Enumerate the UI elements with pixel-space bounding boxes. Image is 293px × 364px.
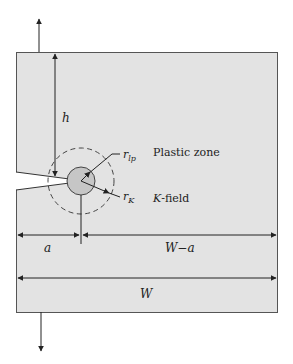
- w-minus-a-label: W−a: [165, 241, 195, 255]
- a-label: a: [44, 241, 51, 255]
- h-label: h: [62, 111, 70, 125]
- k-field-label: K-field: [152, 192, 189, 205]
- plastic-zone-label: Plastic zone: [153, 146, 220, 159]
- w-label: W: [140, 287, 154, 301]
- fracture-diagram: h rlp rK Plastic zone K-field a W−a W: [0, 0, 293, 364]
